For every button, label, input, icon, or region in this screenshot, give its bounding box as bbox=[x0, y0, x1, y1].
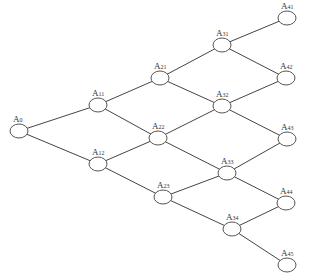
node-label: A33 bbox=[221, 156, 234, 166]
edge-a21-a31 bbox=[160, 45, 222, 78]
node-ellipse bbox=[213, 99, 231, 113]
edge-a12-a23 bbox=[98, 164, 163, 197]
edge-a22-a32 bbox=[158, 106, 222, 138]
edge-a32-a42 bbox=[222, 78, 286, 106]
node-a11: A11 bbox=[89, 88, 107, 112]
node-a41: A41 bbox=[278, 1, 296, 25]
node-a43: A43 bbox=[278, 122, 296, 146]
node-ellipse bbox=[277, 196, 295, 210]
node-ellipse bbox=[213, 38, 231, 52]
node-label: A11 bbox=[92, 88, 104, 98]
node-ellipse bbox=[89, 157, 107, 171]
node-ellipse bbox=[154, 190, 172, 204]
edge-a23-a33 bbox=[163, 173, 227, 197]
node-label: A12 bbox=[92, 147, 105, 157]
node-ellipse bbox=[218, 166, 236, 180]
node-ellipse bbox=[278, 11, 296, 25]
node-a31: A31 bbox=[213, 28, 231, 52]
node-label: A22 bbox=[152, 121, 165, 131]
node-ellipse bbox=[151, 71, 169, 85]
nodes-group: A0A11A12A21A22A23A31A32A33A34A41A42A43A4… bbox=[10, 1, 296, 272]
node-label: A45 bbox=[281, 248, 294, 258]
node-a44: A44 bbox=[277, 186, 295, 210]
node-label: A41 bbox=[281, 1, 294, 11]
node-label: A32 bbox=[216, 89, 229, 99]
node-ellipse bbox=[223, 222, 241, 236]
node-ellipse bbox=[278, 132, 296, 146]
node-label: A44 bbox=[280, 186, 293, 196]
node-ellipse bbox=[149, 131, 167, 145]
node-a33: A33 bbox=[218, 156, 236, 180]
node-a0: A0 bbox=[10, 114, 28, 138]
node-a34: A34 bbox=[223, 212, 241, 236]
lattice-diagram: A0A11A12A21A22A23A31A32A33A34A41A42A43A4… bbox=[0, 0, 309, 278]
edge-a0-a11 bbox=[19, 105, 98, 131]
edge-a0-a12 bbox=[19, 131, 98, 164]
edge-a23-a34 bbox=[163, 197, 232, 229]
node-ellipse bbox=[10, 124, 28, 138]
edge-a11-a21 bbox=[98, 78, 160, 105]
node-label: A21 bbox=[154, 61, 167, 71]
node-label: A0 bbox=[13, 114, 23, 124]
edge-a12-a22 bbox=[98, 138, 158, 164]
node-label: A43 bbox=[281, 122, 294, 132]
node-a22: A22 bbox=[149, 121, 167, 145]
node-a32: A32 bbox=[213, 89, 231, 113]
node-a21: A21 bbox=[151, 61, 169, 85]
node-label: A23 bbox=[157, 180, 170, 190]
node-a42: A42 bbox=[277, 61, 295, 85]
node-a12: A12 bbox=[89, 147, 107, 171]
node-ellipse bbox=[89, 98, 107, 112]
edge-a32-a43 bbox=[222, 106, 287, 139]
edge-a11-a22 bbox=[98, 105, 158, 138]
edge-a33-a43 bbox=[227, 139, 287, 173]
node-a45: A45 bbox=[278, 248, 296, 272]
node-label: A31 bbox=[216, 28, 229, 38]
edge-a22-a33 bbox=[158, 138, 227, 173]
node-ellipse bbox=[278, 258, 296, 272]
edge-a31-a41 bbox=[222, 18, 287, 45]
node-label: A34 bbox=[226, 212, 239, 222]
node-a23: A23 bbox=[154, 180, 172, 204]
edge-a34-a45 bbox=[232, 229, 287, 265]
edge-a21-a32 bbox=[160, 78, 222, 106]
node-label: A42 bbox=[280, 61, 293, 71]
edge-a31-a42 bbox=[222, 45, 286, 78]
edge-a33-a44 bbox=[227, 173, 286, 203]
node-ellipse bbox=[277, 71, 295, 85]
